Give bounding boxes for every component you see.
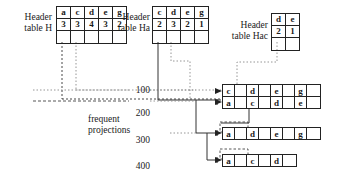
header-table-Hac-items-row: d e bbox=[272, 14, 300, 26]
arrow-row100 bbox=[215, 88, 222, 94]
frequent-projections-label-line1: frequent bbox=[88, 114, 130, 125]
header-table-Hac-label-line2: table Hac bbox=[212, 31, 268, 42]
header-table-H-item-c[interactable]: c bbox=[71, 7, 85, 19]
diagram-canvas: Header table H a c d e g 3 3 4 3 2 Heade… bbox=[0, 0, 339, 181]
tid-400: 400 bbox=[130, 161, 150, 171]
header-table-Hac-link-e[interactable] bbox=[286, 38, 300, 51]
tid-100: 100 bbox=[130, 85, 150, 95]
header-table-Hac-links-row bbox=[272, 38, 300, 51]
header-table-Hac-link-d[interactable] bbox=[272, 38, 286, 51]
tid-300: 300 bbox=[130, 135, 150, 145]
header-table-Ha-count-g: 1 bbox=[195, 19, 209, 31]
header-table-H-item-d[interactable]: d bbox=[85, 7, 99, 19]
header-table-Ha-counts-row: 2 3 2 1 bbox=[153, 19, 209, 31]
header-table-Ha-count-c: 2 bbox=[153, 19, 167, 31]
projection-row-300[interactable]: a d e g bbox=[222, 127, 321, 140]
header-table-Ha-label: Header table Ha bbox=[104, 12, 150, 34]
header-table-Hac-counts-row: 2 1 bbox=[272, 26, 300, 38]
header-table-H-count-d: 4 bbox=[85, 19, 99, 31]
wire-Ha-d bbox=[171, 42, 190, 100]
header-table-Ha-links-row bbox=[153, 31, 209, 44]
header-table-Hac-label: Header table Hac bbox=[212, 20, 268, 42]
header-table-Ha-count-e: 2 bbox=[181, 19, 195, 31]
header-table-H-link-d[interactable] bbox=[85, 31, 99, 44]
header-table-Ha-item-c[interactable]: c bbox=[153, 7, 167, 19]
header-table-Ha-label-line2: table Ha bbox=[104, 23, 150, 34]
header-table-H-link-c[interactable] bbox=[71, 31, 85, 44]
header-table-H-count-a: 3 bbox=[57, 19, 71, 31]
arrow-row400 bbox=[215, 157, 222, 163]
header-table-H-label-line2: table H bbox=[4, 23, 52, 34]
header-table-H-count-c: 3 bbox=[71, 19, 85, 31]
projection-row-400[interactable]: a c d bbox=[222, 154, 297, 167]
projection-row-300-cell-7[interactable] bbox=[306, 127, 321, 140]
header-table-Ha-item-g[interactable]: g bbox=[195, 7, 209, 19]
header-table-Ha-label-line1: Header bbox=[104, 12, 150, 23]
wire-row200-up bbox=[221, 107, 249, 123]
header-table-Ha-count-d: 3 bbox=[167, 19, 181, 31]
header-table-Ha-item-d[interactable]: d bbox=[167, 7, 181, 19]
header-table-H-item-a[interactable]: a bbox=[57, 7, 71, 19]
header-table-Hac-label-line1: Header bbox=[212, 20, 268, 31]
tid-200: 200 bbox=[130, 108, 150, 118]
header-table-Hac-item-d[interactable]: d bbox=[272, 14, 286, 26]
frequent-projections-label: frequent projections bbox=[88, 114, 130, 136]
header-table-H-label-line1: Header bbox=[4, 12, 52, 23]
header-table-Ha: c d e g 2 3 2 1 bbox=[152, 6, 209, 44]
header-table-H-link-a[interactable] bbox=[57, 31, 71, 44]
header-table-Ha-items-row: c d e g bbox=[153, 7, 209, 19]
header-table-Hac-count-d: 2 bbox=[272, 26, 286, 38]
header-table-Ha-link-g[interactable] bbox=[195, 31, 209, 44]
header-table-Ha-item-e[interactable]: e bbox=[181, 7, 195, 19]
wire-Ha-c bbox=[158, 42, 221, 100]
header-table-Hac-count-e: 1 bbox=[286, 26, 300, 38]
projection-row-400-cell-5[interactable] bbox=[282, 154, 297, 167]
header-table-H-label: Header table H bbox=[4, 12, 52, 34]
frequent-projections-label-line2: projections bbox=[88, 125, 130, 136]
header-table-Ha-link-d[interactable] bbox=[167, 31, 181, 44]
header-table-Hac: d e 2 1 bbox=[271, 13, 300, 51]
header-table-Ha-link-c[interactable] bbox=[153, 31, 167, 44]
projection-row-200[interactable]: a c d e bbox=[222, 96, 321, 109]
arrow-row300 bbox=[215, 130, 222, 136]
header-table-Ha-link-e[interactable] bbox=[181, 31, 195, 44]
header-table-Hac-item-e[interactable]: e bbox=[286, 14, 300, 26]
projection-row-200-cell-7[interactable] bbox=[306, 96, 321, 109]
